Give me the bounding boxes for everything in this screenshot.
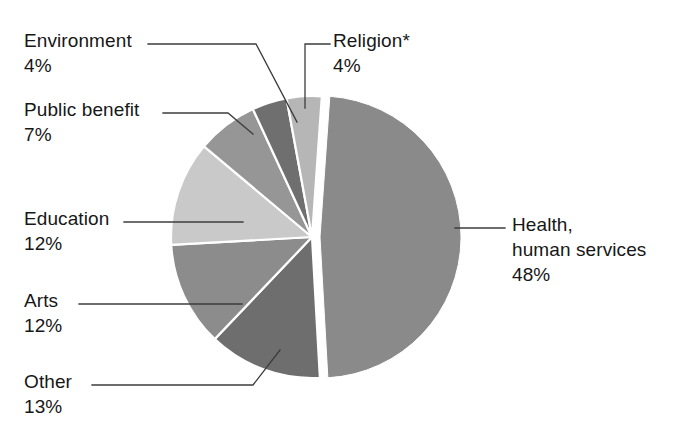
slice-label-health-name-line2: human services: [512, 237, 646, 262]
slice-label-public-benefit-percent: 7%: [24, 122, 139, 147]
slice-label-religion-percent: 4%: [333, 53, 410, 78]
slice-label-public-benefit-name: Public benefit: [24, 97, 139, 122]
slice-label-other: Other 13%: [24, 369, 72, 419]
pie-chart: Environment 4% Public benefit 7% Educati…: [0, 0, 676, 441]
pie-slices: [171, 96, 461, 378]
slice-label-other-percent: 13%: [24, 394, 72, 419]
slice-label-education: Education 12%: [24, 206, 109, 256]
pie-slice-health[interactable]: [320, 96, 461, 377]
slice-label-education-percent: 12%: [24, 231, 109, 256]
slice-label-religion-name: Religion*: [333, 28, 410, 53]
slice-label-religion: Religion* 4%: [333, 28, 410, 78]
slice-label-environment-percent: 4%: [24, 53, 132, 78]
slice-label-other-name: Other: [24, 369, 72, 394]
slice-label-health-name: Health,: [512, 212, 646, 237]
slice-label-environment-name: Environment: [24, 28, 132, 53]
slice-label-arts-name: Arts: [24, 288, 62, 313]
slice-label-public-benefit: Public benefit 7%: [24, 97, 139, 147]
slice-label-arts-percent: 12%: [24, 313, 62, 338]
slice-label-health: Health, human services 48%: [512, 212, 646, 287]
slice-label-education-name: Education: [24, 206, 109, 231]
slice-label-health-percent: 48%: [512, 262, 646, 287]
slice-label-arts: Arts 12%: [24, 288, 62, 338]
slice-label-environment: Environment 4%: [24, 28, 132, 78]
